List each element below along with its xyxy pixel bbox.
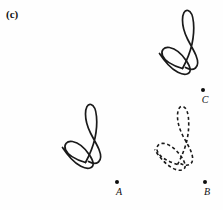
scribble-dashed-lower-right: [147, 102, 207, 172]
figure-panel: (c) A B C: [0, 0, 223, 210]
point-label-c: C: [199, 94, 211, 105]
scribble-solid-lower-left: [55, 100, 115, 170]
point-label-a: A: [113, 186, 125, 197]
point-dot-icon: [115, 180, 120, 185]
panel-label: (c): [6, 8, 18, 20]
point-dot-icon: [201, 88, 206, 93]
point-dot-icon: [203, 180, 208, 185]
point-label-b: B: [201, 186, 213, 197]
scribble-solid-top-right: [152, 6, 212, 76]
